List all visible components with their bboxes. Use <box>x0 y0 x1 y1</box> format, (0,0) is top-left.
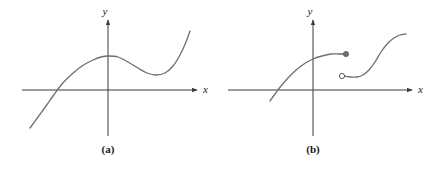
panel-a-caption: (a) <box>88 143 128 155</box>
panel-a-axes <box>22 20 197 136</box>
panel-a-curve <box>30 31 190 128</box>
panel-b: x y <box>228 5 423 136</box>
panel-b-x-axis-label: x <box>417 83 423 95</box>
figure-two-panel-graphs: x y x y <box>0 0 434 170</box>
panel-b-open-endpoint-circle <box>339 73 344 78</box>
panel-b-axes <box>228 20 412 136</box>
panel-b-closed-endpoint-dot <box>343 51 348 56</box>
panel-b-y-axis-label: y <box>307 5 313 17</box>
panel-b-curve-right-branch <box>343 34 406 77</box>
panel-b-caption: (b) <box>293 143 333 155</box>
panel-b-curve-left-branch <box>270 54 345 101</box>
panel-a-y-axis-label: y <box>102 5 108 17</box>
panel-a-x-axis-label: x <box>202 83 208 95</box>
panel-a: x y <box>22 5 208 136</box>
